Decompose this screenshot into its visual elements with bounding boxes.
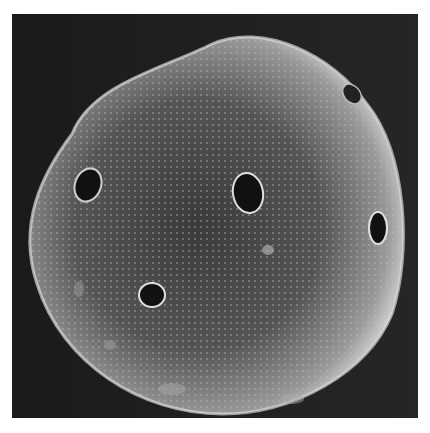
pore-faint (158, 383, 186, 395)
pollen-grain-image (12, 14, 418, 418)
pore (139, 283, 165, 307)
pore-faint (262, 245, 274, 255)
pore-faint (280, 394, 304, 404)
pore (369, 212, 387, 244)
pore-faint (74, 281, 84, 297)
pore-faint (104, 340, 116, 350)
micrograph-frame (12, 14, 418, 418)
